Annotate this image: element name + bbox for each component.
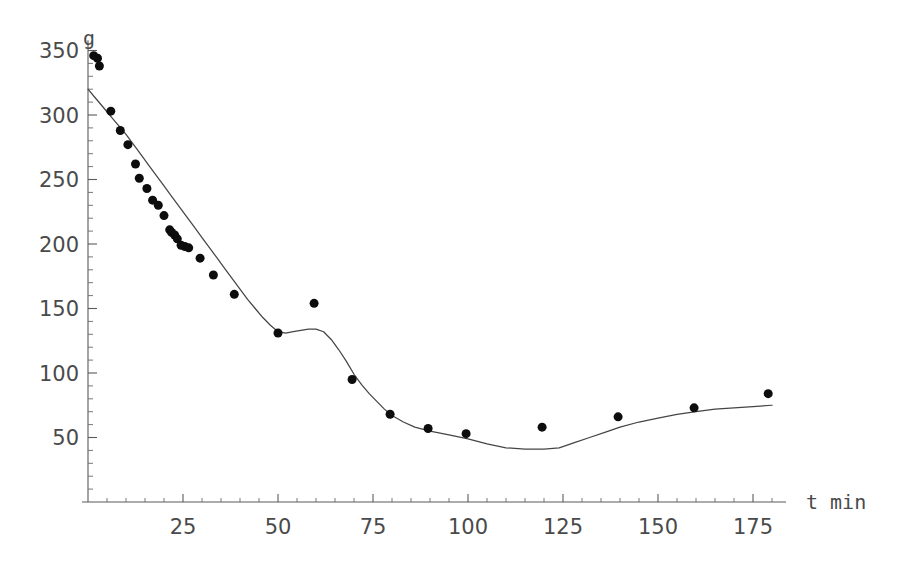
data-point <box>538 423 547 432</box>
data-point <box>348 375 357 384</box>
data-point <box>93 54 102 63</box>
data-point <box>614 412 623 421</box>
data-point <box>154 201 163 210</box>
plot-root: 50100150200250300350 255075100125150175 … <box>0 0 920 562</box>
y-axis: 50100150200250300350 <box>39 39 97 502</box>
y-tick-label: 300 <box>39 104 79 128</box>
data-point <box>135 174 144 183</box>
data-point <box>131 160 140 169</box>
data-point <box>230 290 239 299</box>
data-point <box>95 61 104 70</box>
data-point-series <box>89 51 773 438</box>
data-point <box>123 140 132 149</box>
y-tick-label: 250 <box>39 168 79 192</box>
y-tick-label: 350 <box>39 39 79 63</box>
fitted-curve-path <box>88 89 772 449</box>
y-tick-label: 100 <box>39 362 79 386</box>
x-tick-label: 50 <box>265 515 292 539</box>
data-point <box>142 184 151 193</box>
fitted-curve <box>88 89 772 449</box>
x-tick-label: 150 <box>638 515 678 539</box>
data-point <box>690 403 699 412</box>
x-tick-label: 75 <box>360 515 387 539</box>
data-point <box>462 429 471 438</box>
data-point <box>386 410 395 419</box>
y-axis-label: g <box>83 26 95 50</box>
y-tick-label: 200 <box>39 233 79 257</box>
x-axis: 255075100125150175 <box>82 494 786 539</box>
data-point <box>106 107 115 116</box>
y-tick-label: 50 <box>52 426 79 450</box>
data-point <box>310 299 319 308</box>
data-point <box>274 329 283 338</box>
scatter-plot-figure: 50100150200250300350 255075100125150175 … <box>0 0 920 562</box>
data-point <box>764 389 773 398</box>
data-point <box>184 243 193 252</box>
data-point <box>160 211 169 220</box>
data-point <box>116 126 125 135</box>
data-point <box>196 254 205 263</box>
y-tick-label: 150 <box>39 297 79 321</box>
data-point <box>424 424 433 433</box>
data-point <box>209 270 218 279</box>
x-tick-label: 25 <box>170 515 197 539</box>
x-tick-label: 175 <box>733 515 773 539</box>
x-axis-label: t min <box>806 490 866 514</box>
x-tick-label: 100 <box>448 515 488 539</box>
x-tick-label: 125 <box>543 515 583 539</box>
